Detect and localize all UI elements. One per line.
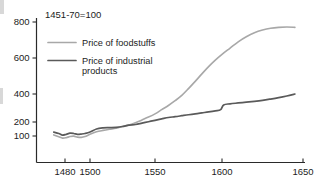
legend-label-industrial-line2: products bbox=[82, 66, 118, 76]
legend-label-industrial-line1: Price of industrial bbox=[82, 56, 152, 66]
chart-canvas: 1451-70=100 100200400600800 148015001550… bbox=[0, 0, 319, 191]
x-tick-label: 1550 bbox=[144, 166, 165, 177]
y-tick-group: 100200400600800 bbox=[14, 16, 37, 141]
series-path-industrial bbox=[54, 94, 295, 135]
x-tick-label: 1480 bbox=[54, 166, 75, 177]
y-tick-label: 100 bbox=[14, 130, 30, 141]
x-tick-label: 1500 bbox=[79, 166, 100, 177]
x-tick-group: 14801500155016001650 bbox=[54, 159, 313, 177]
x-axis: 14801500155016001650 bbox=[37, 159, 314, 177]
y-axis: 100200400600800 bbox=[14, 16, 37, 162]
x-tick-label: 1650 bbox=[292, 166, 313, 177]
y-tick-label: 600 bbox=[14, 52, 30, 63]
chart-title: 1451-70=100 bbox=[45, 9, 101, 20]
legend-label-foodstuffs: Price of foodstuffs bbox=[82, 38, 156, 48]
price-index-chart: 1451-70=100 100200400600800 148015001550… bbox=[0, 0, 319, 191]
y-tick-label: 400 bbox=[14, 88, 30, 99]
x-tick-label: 1600 bbox=[211, 166, 232, 177]
y-tick-label: 200 bbox=[14, 116, 30, 127]
chart-legend: Price of foodstuffs Price of industrial … bbox=[48, 38, 156, 76]
y-tick-label: 800 bbox=[14, 16, 30, 27]
